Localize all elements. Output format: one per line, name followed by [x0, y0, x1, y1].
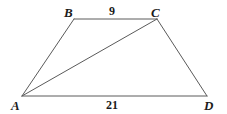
diagonal-ac — [22, 19, 157, 96]
vertex-label-b: B — [64, 6, 73, 19]
vertex-label-d: D — [204, 99, 213, 112]
geometry-figure: A B C D 9 21 — [0, 0, 227, 114]
vertex-label-c: C — [151, 6, 160, 19]
side-length-ad: 21 — [106, 99, 118, 111]
side-length-bc: 9 — [109, 5, 115, 17]
vertex-label-a: A — [11, 99, 20, 112]
edge-cd — [157, 19, 207, 96]
edge-ab — [22, 19, 74, 96]
